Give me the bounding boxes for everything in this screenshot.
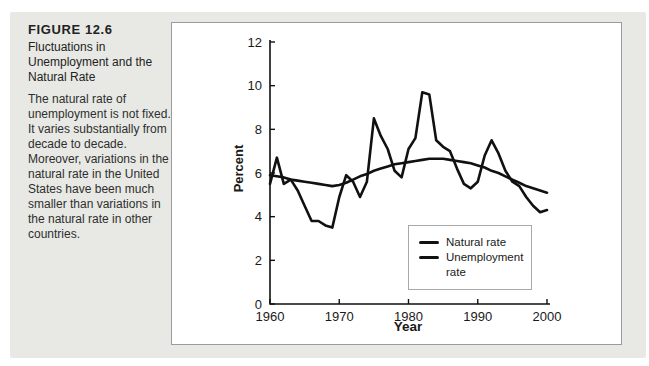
series-line-unemployment-rate xyxy=(270,92,547,227)
chart-panel: 02468101219601970198019902000 Percent Ye… xyxy=(171,22,622,345)
figure-caption: FIGURE 12.6 Fluctuations in Unemployment… xyxy=(28,22,178,242)
legend-item: Unemployment rate xyxy=(419,250,525,280)
figure-title: Fluctuations in Unemployment and the Nat… xyxy=(28,40,178,85)
series-line-natural-rate xyxy=(270,159,547,193)
legend-label-unemployment-rate: Unemployment rate xyxy=(446,250,525,280)
figure-box: FIGURE 12.6 Fluctuations in Unemployment… xyxy=(10,12,646,358)
natural-rate-line-icon xyxy=(419,241,439,244)
unemployment-rate-line-icon xyxy=(419,256,439,259)
x-tick-label: 1960 xyxy=(256,309,285,324)
figure-description: The natural rate of unemployment is not … xyxy=(28,92,178,242)
legend-item: Natural rate xyxy=(419,235,525,250)
y-tick-label: 10 xyxy=(248,78,262,93)
y-tick-label: 4 xyxy=(255,209,262,224)
legend-label-natural-rate: Natural rate xyxy=(446,235,506,250)
y-axis-label: Percent xyxy=(231,139,246,199)
figure-number: FIGURE 12.6 xyxy=(28,22,178,37)
y-tick-label: 2 xyxy=(255,253,262,268)
x-tick-label: 2000 xyxy=(533,309,562,324)
x-axis-label: Year xyxy=(343,319,473,334)
y-tick-label: 8 xyxy=(255,122,262,137)
y-tick-label: 12 xyxy=(248,35,262,50)
legend-box: Natural rate Unemployment rate xyxy=(408,225,532,290)
y-tick-label: 6 xyxy=(255,166,262,181)
